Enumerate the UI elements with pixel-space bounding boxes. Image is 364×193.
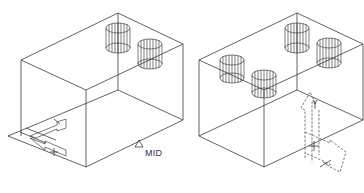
cad-figure <box>0 0 364 193</box>
left-cylinder-2 <box>138 39 162 69</box>
left-cylinder-1 <box>106 23 130 53</box>
right-box <box>199 13 363 167</box>
ucs-icon-dashed <box>301 92 346 172</box>
left-box <box>8 13 183 167</box>
ucs-icon-solid <box>20 119 66 156</box>
midpoint-label: MID <box>145 148 162 158</box>
right-cylinder-2 <box>252 70 276 98</box>
right-cylinder-3 <box>285 23 309 53</box>
